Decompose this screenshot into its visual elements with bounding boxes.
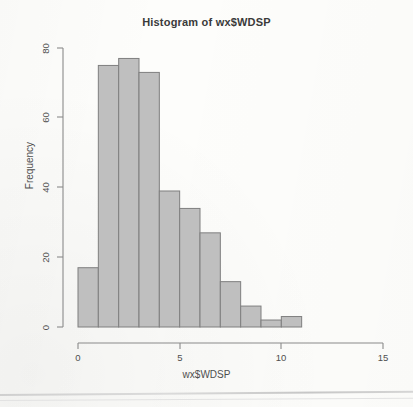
histogram-bars [78,58,302,327]
y-tick-label-80: 80 [40,39,51,59]
histogram-plot [0,0,413,407]
y-axis-title: Frequency [24,131,35,201]
histogram-bar [200,233,220,327]
x-tick-label-0: 0 [68,352,88,363]
histogram-bar [139,72,159,327]
histogram-bar [180,208,200,327]
y-tick-label-20: 20 [40,248,51,268]
x-tick-label-5: 5 [170,352,190,363]
histogram-bar [159,191,179,327]
x-axis-ticks [78,343,383,349]
histogram-bar [220,282,240,327]
y-tick-label-40: 40 [40,178,51,198]
x-axis-title: wx$WDSP [0,369,413,380]
y-tick-label-60: 60 [40,108,51,128]
histogram-bar [78,268,98,327]
y-tick-label-0: 0 [40,318,51,338]
histogram-bar [119,58,139,327]
y-axis-ticks [57,48,63,327]
x-tick-label-15: 15 [373,352,393,363]
histogram-bar [281,317,301,327]
histogram-bar [241,306,261,327]
x-tick-label-10: 10 [271,352,291,363]
histogram-bar [261,320,281,327]
chart-page: Histogram of wx$WDSP 0 20 40 60 80 0 5 1… [0,0,413,407]
histogram-bar [98,65,118,327]
